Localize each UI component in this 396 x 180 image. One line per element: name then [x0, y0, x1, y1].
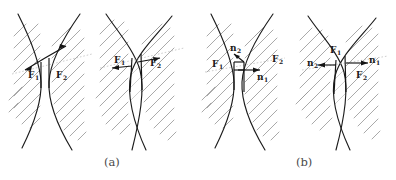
svg-text:2: 2 — [363, 74, 367, 81]
label-F1-b1: F 1 — [212, 59, 223, 70]
svg-text:F: F — [330, 45, 337, 55]
label-F1-a2: F 1 — [114, 55, 125, 66]
stem-right-b2 — [345, 56, 346, 92]
subpanel-b2-overlap-normals: n 2 n 1 F 1 F 2 — [296, 16, 388, 150]
svg-text:F: F — [56, 70, 63, 80]
label-F2-a1: F 2 — [56, 70, 67, 81]
hatch-right-a1 — [52, 26, 86, 140]
figure-canvas: F 1 F 2 — [0, 0, 396, 180]
svg-text:1: 1 — [219, 63, 223, 70]
guide-line-a1 — [12, 54, 92, 74]
label-F1-a1: F 1 — [28, 70, 39, 81]
vector-n2-b1 — [234, 54, 244, 62]
contact-mechanics-figure: F 1 F 2 — [0, 0, 396, 180]
svg-text:n: n — [307, 58, 314, 68]
label-n1-b1: n 1 — [257, 72, 268, 83]
stem-right-a2 — [141, 54, 142, 90]
svg-text:2: 2 — [279, 58, 283, 65]
svg-text:n: n — [257, 72, 264, 82]
label-F2-b1: F 2 — [272, 54, 283, 65]
svg-text:F: F — [212, 59, 219, 69]
hatch-right-a2 — [142, 24, 176, 140]
caption-panel-b: (b) — [296, 155, 312, 169]
svg-text:F: F — [150, 58, 157, 68]
svg-text:n: n — [230, 43, 237, 53]
svg-text:1: 1 — [376, 59, 380, 66]
label-F1-b2: F 1 — [330, 45, 341, 56]
svg-text:1: 1 — [337, 49, 341, 56]
label-n1-b2: n 1 — [369, 55, 380, 66]
svg-text:2: 2 — [237, 47, 241, 54]
svg-text:F: F — [28, 70, 35, 80]
subpanel-a1-gap: F 1 F 2 — [9, 14, 92, 150]
caption-panel-a: (a) — [104, 155, 120, 169]
hatch-right-b1 — [245, 26, 279, 140]
svg-text:1: 1 — [35, 74, 39, 81]
svg-text:2: 2 — [63, 74, 67, 81]
svg-text:1: 1 — [121, 59, 125, 66]
svg-text:2: 2 — [314, 62, 318, 69]
vector-n1-b2 — [346, 61, 368, 66]
subpanel-a2-overlap: F 1 F 2 — [96, 14, 184, 150]
label-n2-b1: n 2 — [230, 43, 241, 54]
svg-text:1: 1 — [264, 76, 268, 83]
svg-text:2: 2 — [157, 62, 161, 69]
hatch-left-b2 — [296, 28, 332, 130]
subpanel-b1-gap-normals: n 2 n 1 F 1 F 2 — [202, 14, 285, 150]
body-outline-left-b2 — [308, 16, 346, 150]
hatch-right-b2 — [346, 26, 380, 139]
svg-text:F: F — [114, 55, 121, 65]
label-F2-a2: F 2 — [150, 58, 161, 69]
svg-text:n: n — [369, 55, 376, 65]
svg-text:F: F — [272, 54, 279, 64]
svg-text:F: F — [356, 70, 363, 80]
body-outline-right-b2 — [333, 18, 376, 150]
label-F2-b2: F 2 — [356, 70, 367, 81]
hatch-left-a2 — [96, 20, 130, 134]
hatch-left-b1 — [202, 24, 233, 128]
